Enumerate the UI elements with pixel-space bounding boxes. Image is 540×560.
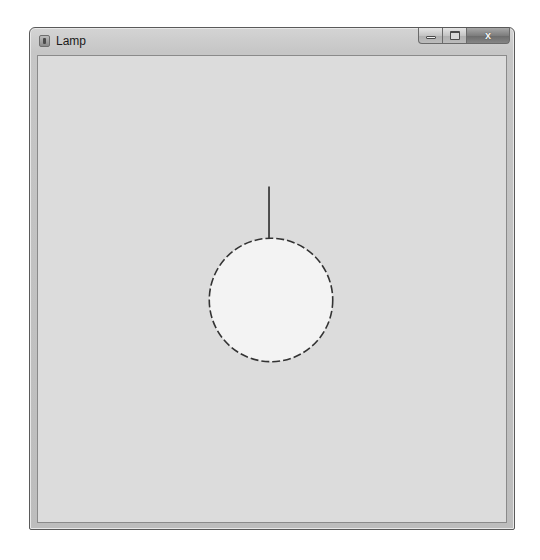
title-bar[interactable]: Lamp x — [30, 28, 514, 54]
window-title: Lamp — [56, 35, 86, 48]
lamp-bulb — [209, 238, 332, 361]
close-icon: x — [467, 29, 509, 42]
minimize-icon — [426, 36, 436, 39]
maximize-icon — [450, 31, 460, 40]
caption-buttons: x — [418, 28, 510, 44]
maximize-button[interactable] — [443, 28, 467, 44]
close-button[interactable]: x — [467, 28, 510, 44]
app-window: Lamp x — [29, 27, 515, 530]
minimize-button[interactable] — [418, 28, 443, 44]
lamp-canvas — [38, 56, 506, 522]
java-app-icon[interactable] — [39, 35, 50, 47]
drawing-panel — [37, 55, 507, 523]
